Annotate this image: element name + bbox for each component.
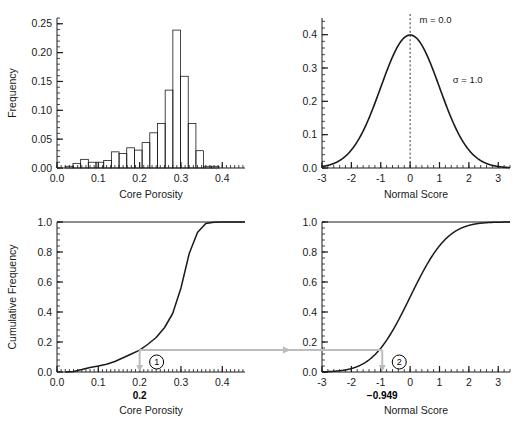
- histogram-bar: [73, 163, 81, 168]
- histogram-y-tick-label: 0.05: [32, 133, 53, 145]
- nscore-cdf-x-tick-label: -2: [347, 376, 356, 388]
- pdf-x-tick-label: -2: [347, 172, 356, 184]
- pdf-x-tick-label: 3: [495, 172, 501, 184]
- figure-normal-score-transform: 0.00.10.20.30.40.000.050.100.150.200.25C…: [0, 0, 530, 435]
- nscore-cdf-x-tick-label: -3: [317, 376, 326, 388]
- nscore-cdf-marker-label: −0.949: [367, 390, 398, 401]
- histogram-y-tick-label: 0.15: [32, 75, 53, 87]
- histogram-x-tick-label: 0.2: [132, 172, 147, 184]
- histogram-bar: [150, 133, 158, 168]
- histogram-bar: [188, 124, 196, 168]
- nscore-cdf-x-tick-label: 2: [466, 376, 472, 388]
- pdf-y-tick-label: 0.2: [302, 95, 317, 107]
- histogram-bar: [104, 161, 112, 169]
- figure-canvas: 0.00.10.20.30.40.000.050.100.150.200.25C…: [0, 0, 530, 435]
- porosity-cdf-y-tick-label: 1.0: [37, 216, 52, 228]
- pdf-sigma-annotation: σ = 1.0: [453, 74, 483, 85]
- nscore-cdf-y-tick-label: 0.4: [302, 306, 317, 318]
- porosity-cdf-y-tick-label: 0.2: [37, 336, 52, 348]
- nscore-cdf-y-tick-label: 0.2: [302, 336, 317, 348]
- nscore-cdf-x-tick-label: 3: [495, 376, 501, 388]
- porosity-cdf-marker-arrowhead: [136, 365, 143, 372]
- pdf-y-tick-label: 0.0: [302, 162, 317, 174]
- porosity-cdf-x-tick-label: 0.2: [132, 376, 147, 388]
- nscore-cdf-x-tick-label: 1: [437, 376, 443, 388]
- histogram-x-tick-label: 0.1: [91, 172, 106, 184]
- nscore-cdf-y-tick-label: 0.6: [302, 276, 317, 288]
- pdf-x-tick-label: -3: [317, 172, 326, 184]
- nscore-cdf-marker-arrowhead: [379, 365, 386, 372]
- histogram-bar: [88, 162, 96, 168]
- histogram-xlabel: Core Porosity: [119, 188, 183, 200]
- porosity-cdf-x-tick-label: 0.4: [215, 376, 230, 388]
- pdf-y-tick-label: 0.1: [302, 128, 317, 140]
- porosity-cdf-marker-label: 0.2: [133, 390, 147, 401]
- porosity-cdf-y-tick-label: 0.0: [37, 366, 52, 378]
- nscore-cdf-step-number: 2: [397, 357, 402, 367]
- pdf-x-tick-label: 2: [466, 172, 472, 184]
- pdf-y-tick-label: 0.4: [302, 28, 317, 40]
- pdf-x-tick-label: 1: [437, 172, 443, 184]
- porosity-cdf-x-tick-label: 0.3: [174, 376, 189, 388]
- histogram-bar: [127, 148, 135, 168]
- porosity-cdf-y-tick-label: 0.8: [37, 246, 52, 258]
- nscore-cdf-y-tick-label: 1.0: [302, 216, 317, 228]
- porosity-cdf-xlabel: Core Porosity: [119, 404, 183, 416]
- porosity-cdf-x-tick-label: 0.1: [91, 376, 106, 388]
- histogram-bar: [196, 151, 204, 168]
- histogram-bar: [173, 30, 181, 168]
- porosity-cdf-ylabel: Cumulative Frequency: [6, 244, 18, 350]
- histogram-y-tick-label: 0.10: [32, 104, 53, 116]
- porosity-cdf-y-tick-label: 0.4: [37, 306, 52, 318]
- porosity-cdf-step-number: 1: [154, 357, 159, 367]
- histogram-y-tick-label: 0.00: [32, 162, 53, 174]
- pdf-xlabel: Normal Score: [384, 188, 448, 200]
- pdf-x-tick-label: -1: [376, 172, 385, 184]
- histogram-x-tick-label: 0.3: [174, 172, 189, 184]
- histogram-x-tick-label: 0.4: [215, 172, 230, 184]
- nscore-cdf-x-tick-label: 0: [407, 376, 413, 388]
- histogram-ylabel: Frequency: [6, 67, 18, 117]
- histogram-bar: [142, 143, 150, 168]
- porosity-cdf-y-tick-label: 0.6: [37, 276, 52, 288]
- histogram-y-tick-label: 0.20: [32, 46, 53, 58]
- nscore-cdf-xlabel: Normal Score: [384, 404, 448, 416]
- nscore-cdf-y-tick-label: 0.8: [302, 246, 317, 258]
- pdf-curve: [322, 35, 510, 168]
- histogram-x-tick-label: 0.0: [50, 172, 65, 184]
- histogram-bar: [165, 90, 173, 168]
- nscore-cdf-y-tick-label: 0.0: [302, 366, 317, 378]
- histogram-bar: [157, 124, 165, 168]
- nscore-cdf-x-tick-label: -1: [376, 376, 385, 388]
- pdf-y-tick-label: 0.3: [302, 62, 317, 74]
- histogram-bar: [181, 76, 189, 168]
- histogram-y-tick-label: 0.25: [32, 17, 53, 29]
- pdf-mean-annotation: m = 0.0: [419, 14, 451, 25]
- pdf-x-tick-label: 0: [407, 172, 413, 184]
- porosity-cdf-x-tick-label: 0.0: [50, 376, 65, 388]
